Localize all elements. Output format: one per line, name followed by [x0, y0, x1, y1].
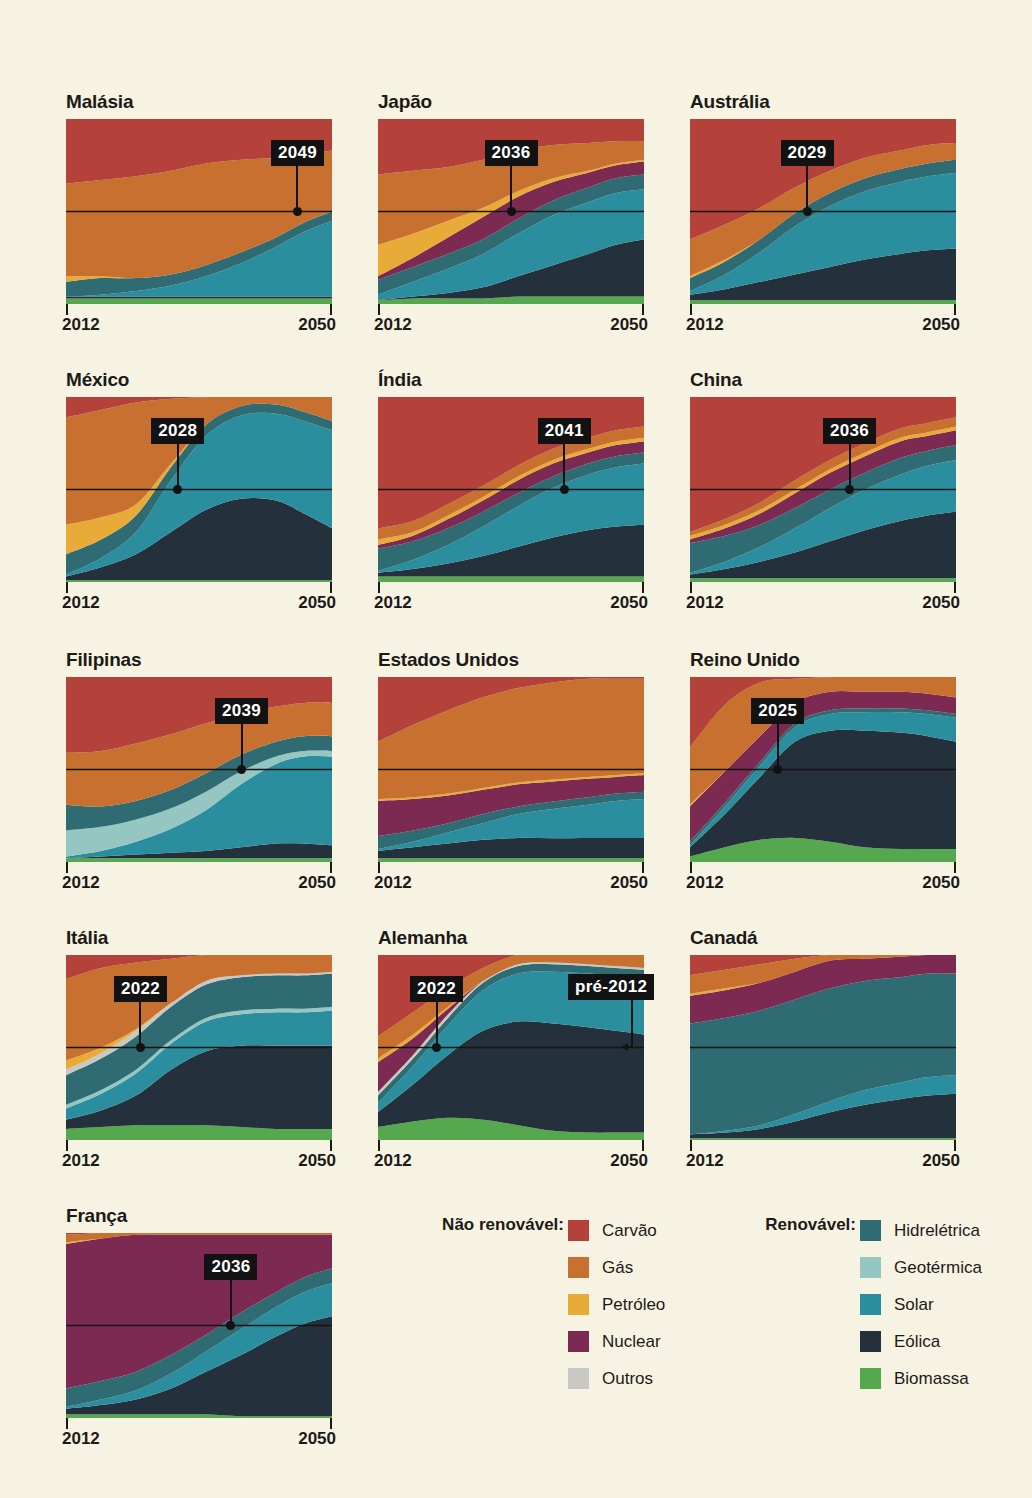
- crossover-year-callout: 2036: [204, 1254, 257, 1280]
- x-axis-label-start: 2012: [62, 316, 100, 334]
- x-axis-label-start: 2012: [62, 1152, 100, 1170]
- chart-panel-canad: Canadápré-201220122050: [690, 928, 956, 1170]
- x-axis-label-start: 2012: [374, 316, 412, 334]
- legend-item-nuclear[interactable]: Nuclear: [568, 1323, 665, 1360]
- legend-label: Carvão: [602, 1221, 657, 1241]
- legend-item-solar[interactable]: Solar: [860, 1286, 982, 1323]
- pre-2012-callout: pré-2012: [568, 974, 654, 1000]
- x-axis: 20122050: [690, 304, 956, 334]
- legend-item-coal[interactable]: Carvão: [568, 1212, 665, 1249]
- legend-heading: Renovável:: [765, 1215, 856, 1235]
- legend-label: Solar: [894, 1295, 934, 1315]
- area-series-wind: [66, 297, 332, 299]
- chart-panel-it-lia: Itália202220122050: [66, 928, 332, 1170]
- x-tick-start: [690, 582, 692, 593]
- legend-swatch-other-icon: [568, 1368, 589, 1389]
- crossover-year-callout: 2036: [823, 418, 876, 444]
- x-tick-end: [954, 862, 956, 873]
- x-tick-start: [378, 1140, 380, 1151]
- x-tick-start: [66, 1418, 68, 1429]
- plot-area: 2022: [66, 955, 332, 1140]
- plot-area: 2049: [66, 119, 332, 304]
- panel-title: Filipinas: [66, 650, 332, 670]
- legend-swatch-oil-icon: [568, 1294, 589, 1315]
- x-tick-end: [330, 862, 332, 873]
- x-axis: 20122050: [66, 1140, 332, 1170]
- stacked-area-svg: [66, 1233, 332, 1418]
- panel-title: Itália: [66, 928, 332, 948]
- elbow-vertical: [631, 1000, 633, 1046]
- x-axis-label-end: 2050: [298, 1152, 336, 1170]
- plot-area: 2028: [66, 397, 332, 582]
- x-axis-label-end: 2050: [298, 1430, 336, 1448]
- legend-item-gas[interactable]: Gás: [568, 1249, 665, 1286]
- x-axis-label-start: 2012: [374, 874, 412, 892]
- x-axis-label-end: 2050: [610, 1152, 648, 1170]
- x-tick-start: [66, 1140, 68, 1151]
- legend-item-biomass[interactable]: Biomassa: [860, 1360, 982, 1397]
- x-tick-end: [642, 582, 644, 593]
- pre-2012-elbow-marker: [622, 1000, 702, 1048]
- x-axis: 20122050: [690, 1140, 956, 1170]
- crossover-year-callout: 2039: [215, 698, 268, 724]
- callout-leader-line: [436, 1002, 438, 1048]
- legend-swatch-nuclear-icon: [568, 1331, 589, 1352]
- panel-title: França: [66, 1206, 332, 1226]
- legend-label: Petróleo: [602, 1295, 665, 1315]
- legend-swatch-wind-icon: [860, 1331, 881, 1352]
- callout-leader-line: [241, 724, 243, 770]
- plot-area: 2036: [690, 397, 956, 582]
- legend-item-hydro[interactable]: Hidrelétrica: [860, 1212, 982, 1249]
- legend: Não renovável:CarvãoGásPetróleoNuclearOu…: [446, 1212, 1012, 1412]
- legend-item-other[interactable]: Outros: [568, 1360, 665, 1397]
- crossover-year-callout: 2036: [485, 140, 538, 166]
- x-tick-end: [330, 1140, 332, 1151]
- x-tick-end: [330, 582, 332, 593]
- chart-panel-alemanha: Alemanha202220122050: [378, 928, 644, 1170]
- legend-swatch-biomass-icon: [860, 1368, 881, 1389]
- legend-label: Nuclear: [602, 1332, 661, 1352]
- elbow-arrow-icon: [621, 1043, 628, 1051]
- legend-label: Biomassa: [894, 1369, 969, 1389]
- panel-title: Índia: [378, 370, 644, 390]
- x-axis-label-start: 2012: [62, 874, 100, 892]
- x-axis: 20122050: [378, 582, 644, 612]
- crossover-year-callout: 2022: [114, 976, 167, 1002]
- callout-leader-line: [806, 166, 808, 212]
- x-axis-label-end: 2050: [298, 594, 336, 612]
- x-tick-start: [690, 862, 692, 873]
- callout-leader-line: [177, 444, 179, 490]
- chart-panel-jap-o: Japão203620122050: [378, 92, 644, 334]
- callout-leader-line: [510, 166, 512, 212]
- chart-panel-m-xico: México202820122050: [66, 370, 332, 612]
- x-axis-label-start: 2012: [374, 594, 412, 612]
- chart-panel-fran-a: França203620122050: [66, 1206, 332, 1448]
- legend-item-geo[interactable]: Geotérmica: [860, 1249, 982, 1286]
- panel-title: México: [66, 370, 332, 390]
- x-tick-end: [330, 304, 332, 315]
- crossover-year-callout: 2041: [538, 418, 591, 444]
- crossover-year-callout: 2022: [410, 976, 463, 1002]
- x-tick-end: [954, 304, 956, 315]
- chart-panel-estados-unidos: Estados Unidos20122050: [378, 650, 644, 892]
- plot-area: 2041: [378, 397, 644, 582]
- legend-label: Eólica: [894, 1332, 940, 1352]
- chart-panel-reino-unido: Reino Unido202520122050: [690, 650, 956, 892]
- legend-swatch-hydro-icon: [860, 1220, 881, 1241]
- legend-swatch-coal-icon: [568, 1220, 589, 1241]
- x-tick-start: [690, 1140, 692, 1151]
- x-axis-label-end: 2050: [922, 874, 960, 892]
- legend-item-wind[interactable]: Eólica: [860, 1323, 982, 1360]
- x-axis-label-start: 2012: [686, 594, 724, 612]
- stacked-area-svg: [690, 677, 956, 862]
- x-axis: 20122050: [66, 862, 332, 892]
- legend-item-oil[interactable]: Petróleo: [568, 1286, 665, 1323]
- stacked-area-svg: [690, 955, 956, 1140]
- legend-swatch-gas-icon: [568, 1257, 589, 1278]
- panel-title: China: [690, 370, 956, 390]
- x-tick-end: [642, 1140, 644, 1151]
- legend-item-list: HidrelétricaGeotérmicaSolarEólicaBiomass…: [860, 1212, 982, 1397]
- x-axis: 20122050: [66, 582, 332, 612]
- stacked-area-svg: [66, 955, 332, 1140]
- plot-area: 2039: [66, 677, 332, 862]
